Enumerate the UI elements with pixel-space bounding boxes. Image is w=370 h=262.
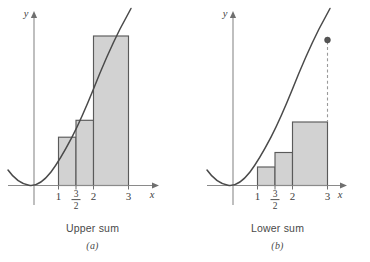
tick-label-3: 3 [126,190,132,202]
riemann-sum-figure: 1 3 2 2 3 x y Upper sum (a) [0,0,370,262]
x-axis-label: x [337,189,343,200]
y-axis-arrowhead [31,11,37,18]
fraction-numerator: 3 [273,189,278,199]
panel-upper-sum: 1 3 2 2 3 x y Upper sum (a) [0,0,185,262]
upper-sum-bars [59,36,129,186]
y-axis-arrowhead [230,11,236,18]
panel-a-caption-title: Upper sum [0,222,185,234]
y-axis-label: y [23,8,29,19]
bar-interval-3 [94,36,129,186]
tick-label-1: 1 [56,190,62,202]
upper-sum-plot: 1 3 2 2 3 x y [0,0,185,215]
tick-label-three-halves: 3 2 [271,189,280,211]
tick-label-2: 2 [91,190,97,202]
panel-b-caption-title: Lower sum [185,222,370,234]
tick-label-3: 3 [325,190,331,202]
bar-interval-1 [59,137,77,185]
fraction-denominator: 2 [273,201,278,211]
lower-sum-bars [258,122,328,186]
lower-sum-plot: 1 3 2 2 3 x y [185,0,370,215]
bar-interval-2 [275,153,293,186]
curve-point-marker [325,37,331,43]
bar-interval-3 [293,122,328,186]
x-axis-arrowhead [152,182,159,188]
panel-lower-sum: 1 3 2 2 3 x y Lower sum (b) [185,0,370,262]
bar-interval-1 [258,167,276,186]
panel-a-caption-tag: (a) [0,240,185,251]
tick-label-2: 2 [290,190,296,202]
tick-label-three-halves: 3 2 [72,189,81,211]
fraction-numerator: 3 [74,189,79,199]
fraction-denominator: 2 [74,201,79,211]
x-axis-label: x [149,189,155,200]
panel-b-caption-tag: (b) [185,240,370,251]
x-axis-arrowhead [340,182,347,188]
bar-interval-2 [76,120,94,185]
y-axis-label: y [222,8,228,19]
tick-label-1: 1 [255,190,261,202]
